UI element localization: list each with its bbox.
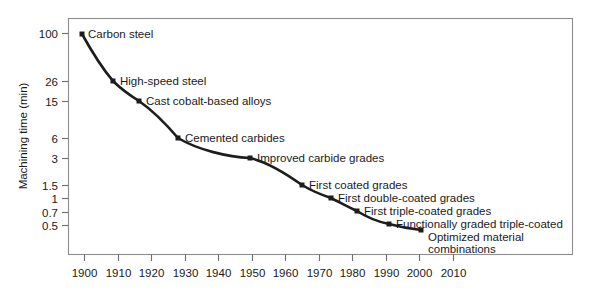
y-tick-label-15: 15 <box>45 96 58 108</box>
data-point-first-double-coated <box>329 196 334 201</box>
point-annotations: Carbon steel High-speed steel Cast cobal… <box>88 28 563 255</box>
y-tick-label-1-5: 1.5 <box>42 180 58 192</box>
annotation-cemented-carbides: Cemented carbides <box>185 132 285 144</box>
x-tick-label-1970: 1970 <box>307 267 333 279</box>
annotation-first-double-coated: First double-coated grades <box>338 192 475 204</box>
annotation-improved-carbide: Improved carbide grades <box>257 152 384 164</box>
data-point-first-coated <box>300 183 305 188</box>
y-tick-label-1: 1 <box>52 193 58 205</box>
data-point-carbon-steel <box>80 32 85 37</box>
y-tick-label-26: 26 <box>45 76 58 88</box>
y-tick-label-0-5: 0.5 <box>42 220 58 232</box>
y-axis-title: Machining time (min) <box>17 82 29 189</box>
x-tick-label-1990: 1990 <box>374 267 400 279</box>
x-axis-ticks <box>85 255 454 262</box>
x-tick-label-1910: 1910 <box>106 267 132 279</box>
x-tick-label-1930: 1930 <box>173 267 199 279</box>
x-tick-label-2010: 2010 <box>441 267 467 279</box>
data-point-cemented-carbides <box>176 136 181 141</box>
chart-figure: 100 26 15 6 3 1.5 1 0.7 0.5 Machining ti… <box>0 0 593 292</box>
data-point-first-triple-coated <box>355 209 360 214</box>
y-tick-label-0-7: 0.7 <box>42 207 58 219</box>
x-axis-tick-labels: 1900 1910 1920 1930 1940 1950 1960 1970 … <box>72 267 467 279</box>
x-tick-label-1950: 1950 <box>240 267 266 279</box>
annotation-functionally-graded: Functionally graded triple-coated <box>396 218 563 230</box>
x-tick-label-1920: 1920 <box>139 267 165 279</box>
x-tick-label-1960: 1960 <box>273 267 299 279</box>
x-tick-label-1980: 1980 <box>340 267 366 279</box>
y-axis-tick-labels: 100 26 15 6 3 1.5 1 0.7 0.5 <box>39 28 58 232</box>
machining-time-line-chart: 100 26 15 6 3 1.5 1 0.7 0.5 Machining ti… <box>0 0 593 292</box>
y-tick-label-6: 6 <box>52 133 58 145</box>
y-tick-label-3: 3 <box>52 153 58 165</box>
y-axis-ticks <box>62 34 69 226</box>
data-point-high-speed-steel <box>111 79 116 84</box>
y-tick-label-100: 100 <box>39 28 58 40</box>
annotation-first-coated: First coated grades <box>309 179 408 191</box>
annotation-cast-cobalt: Cast cobalt-based alloys <box>146 95 272 107</box>
annotation-optimized-material-line2: combinations <box>428 243 496 255</box>
x-tick-label-2000: 2000 <box>407 267 433 279</box>
annotation-high-speed-steel: High-speed steel <box>120 75 206 87</box>
annotation-optimized-material-line1: Optimized material <box>428 231 524 243</box>
data-point-functionally-graded <box>387 222 392 227</box>
annotation-carbon-steel: Carbon steel <box>88 28 153 40</box>
data-point-cast-cobalt <box>137 99 142 104</box>
data-point-improved-carbide <box>248 156 253 161</box>
annotation-first-triple-coated: First triple-coated grades <box>364 205 491 217</box>
x-tick-label-1900: 1900 <box>72 267 98 279</box>
x-tick-label-1940: 1940 <box>206 267 232 279</box>
